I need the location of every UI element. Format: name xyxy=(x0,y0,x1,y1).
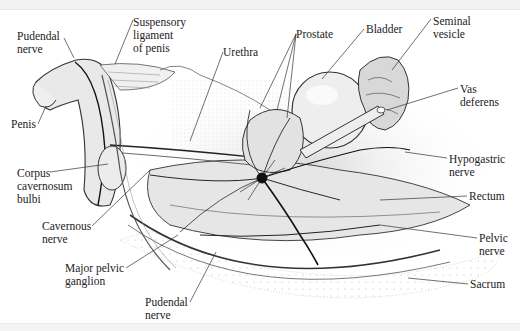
label-cavernous-nerve: Cavernous nerve xyxy=(42,220,91,246)
label-corpus-cavernosum-bulbi: Corpus cavernosum bulbi xyxy=(17,167,73,206)
label-suspensory-ligament: Suspensory ligament of penis xyxy=(133,16,186,55)
label-bladder: Bladder xyxy=(366,23,402,36)
label-penis: Penis xyxy=(11,118,36,131)
label-hypogastric-nerve: Hypogastric nerve xyxy=(449,153,505,179)
label-pudendal-nerve-top: Pudendal nerve xyxy=(17,30,60,56)
label-sacrum: Sacrum xyxy=(470,278,505,291)
label-seminal-vesicle: Seminal vesicle xyxy=(433,15,471,41)
bottom-strip xyxy=(0,323,520,331)
label-vas-deferens: Vas deferens xyxy=(460,83,499,109)
label-major-pelvic-ganglion: Major pelvic ganglion xyxy=(65,262,124,288)
label-rectum: Rectum xyxy=(469,190,505,203)
label-pudendal-nerve-bottom: Pudendal nerve xyxy=(145,296,188,322)
label-urethra: Urethra xyxy=(223,46,258,59)
label-prostate: Prostate xyxy=(296,28,333,41)
label-pelvic-nerve: Pelvic nerve xyxy=(479,232,508,258)
